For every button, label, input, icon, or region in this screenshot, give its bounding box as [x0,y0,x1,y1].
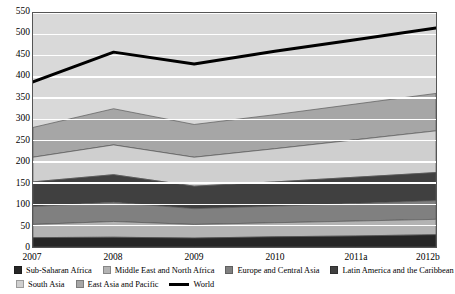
plot-area [32,12,437,248]
legend-item[interactable]: South Asia [16,280,65,289]
y-tick-label: 250 [2,136,30,146]
legend-item-label: Sub-Saharan Africa [26,266,92,275]
y-tick-label: 550 [2,7,30,17]
legend-swatch-icon [16,280,24,288]
y-tick-label: 100 [2,200,30,210]
legend-item-label: East Asia and Pacific [88,280,159,289]
y-tick-label: 300 [2,115,30,125]
x-tick-label: 2010 [266,252,285,263]
legend-swatch-icon [330,266,338,274]
y-tick-label: 200 [2,157,30,167]
legend-item[interactable]: Latin America and the Caribbean [330,266,453,275]
y-tick-label: 500 [2,29,30,39]
chart-legend: Sub-Saharan AfricaMiddle East and North … [0,263,455,291]
legend-item[interactable]: World [169,280,214,289]
legend-line-icon [169,283,189,286]
legend-item[interactable]: East Asia and Pacific [76,280,159,289]
x-tick-label: 2012b [416,252,440,263]
legend-item-label: South Asia [28,280,65,289]
x-tick-label: 2008 [104,252,123,263]
legend-item-label: Europe and Central Asia [237,266,319,275]
legend-item[interactable]: Europe and Central Asia [225,266,319,275]
legend-item-label: Latin America and the Caribbean [342,266,453,275]
y-tick-label: 400 [2,72,30,82]
legend-swatch-icon [225,266,233,274]
x-tick-label: 2011a [345,252,368,263]
plot-svg [33,13,436,247]
x-tick-label: 2007 [23,252,42,263]
legend-item[interactable]: Middle East and North Africa [103,266,215,275]
y-axis: 550500450400350300250200150100500 [0,0,30,260]
legend-item[interactable]: Sub-Saharan Africa [14,266,92,275]
y-tick-label: 150 [2,179,30,189]
y-tick-label: 450 [2,50,30,60]
legend-swatch-icon [103,266,111,274]
legend-item-label: Middle East and North Africa [115,266,215,275]
legend-row-2: South AsiaEast Asia and PacificWorld [0,277,455,291]
legend-row-1: Sub-Saharan AfricaMiddle East and North … [0,263,455,277]
y-tick-label: 350 [2,93,30,103]
y-tick-label: 50 [2,222,30,232]
stacked-area-chart: 550500450400350300250200150100500 200720… [0,0,455,294]
x-tick-label: 2009 [185,252,204,263]
legend-swatch-icon [76,280,84,288]
legend-swatch-icon [14,266,22,274]
legend-item-label: World [193,280,214,289]
